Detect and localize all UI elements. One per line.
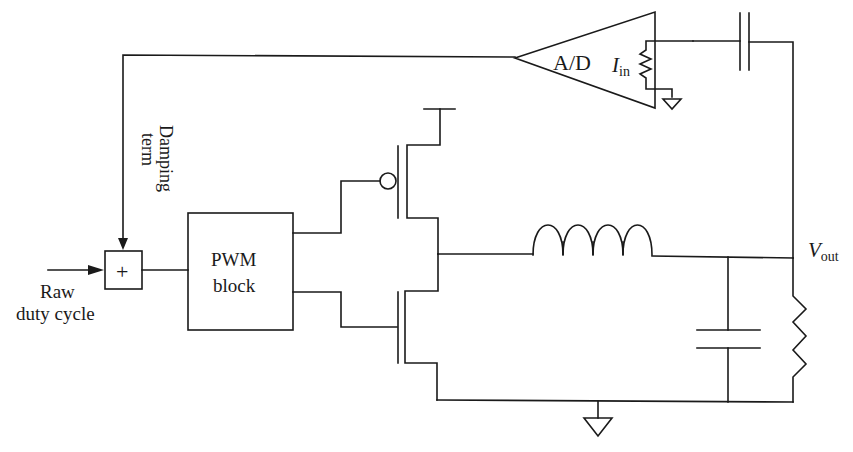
iin-label: Iin (611, 53, 630, 79)
ground-icon (663, 99, 681, 109)
ad-converter: A/D Iin (515, 12, 693, 109)
arrow-down-icon (118, 238, 128, 250)
ground-rail (437, 400, 793, 436)
summing-junction: + (105, 251, 142, 289)
pwm-label: PWM (211, 249, 257, 270)
ground-icon (584, 418, 612, 436)
nmos-switch (293, 254, 438, 400)
pmos-switch (293, 109, 455, 254)
inductor (533, 225, 652, 255)
pwm-block: PWM block (188, 213, 293, 330)
arrow-right-icon (88, 265, 104, 275)
wire-output-node (652, 256, 793, 258)
inversion-bubble-icon (380, 173, 396, 189)
feedback-path (118, 55, 515, 250)
circuit-diagram: A/D Iin + Raw duty cycle Damping term PW… (0, 0, 853, 452)
damping-term-label: Damping term (138, 125, 176, 192)
raw-duty-cycle-input: Raw duty cycle (16, 265, 104, 324)
load-resistor (793, 258, 806, 402)
sense-resistor (640, 41, 693, 109)
duty-cycle-label: duty cycle (16, 303, 95, 324)
vout-label: Vout (808, 238, 839, 264)
svg-text:term: term (138, 133, 158, 166)
plus-icon: + (116, 259, 128, 284)
raw-label: Raw (40, 281, 75, 302)
output-capacitor (697, 257, 760, 402)
ad-label: A/D (553, 50, 591, 75)
block-label: block (213, 275, 256, 296)
svg-text:Damping: Damping (156, 125, 176, 192)
coupling-capacitor (693, 13, 793, 258)
